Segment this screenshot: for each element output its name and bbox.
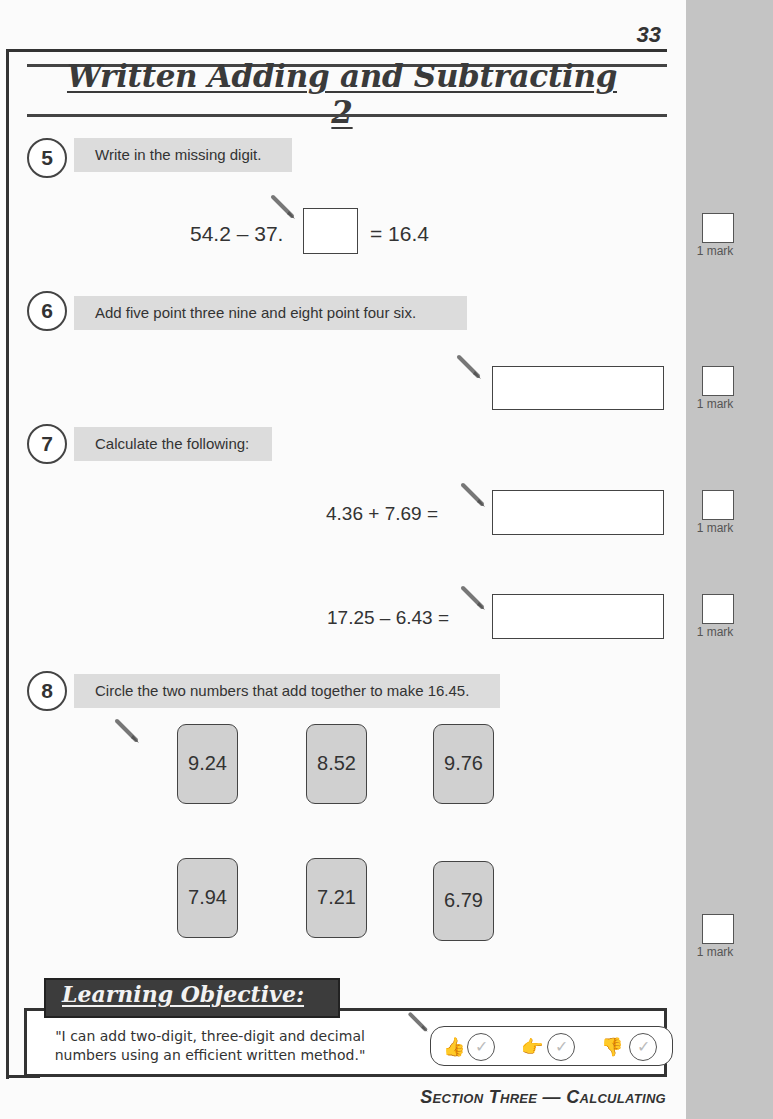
self-assess-check-good[interactable]: ✓ [467, 1033, 495, 1061]
mark-checkbox[interactable] [702, 914, 734, 944]
number-card[interactable]: 7.94 [177, 858, 238, 938]
number-card[interactable]: 6.79 [433, 861, 494, 941]
q7a-expression: 4.36 + 7.69 = [326, 503, 438, 525]
missing-digit-input[interactable] [303, 208, 358, 254]
equation-right: = 16.4 [370, 222, 429, 246]
mark-checkbox[interactable] [702, 366, 734, 396]
question-prompt-7: Calculate the following: [74, 427, 272, 461]
number-card[interactable]: 9.76 [433, 724, 494, 804]
mark-label: 1 mark [692, 397, 738, 411]
title-rule-bottom [27, 114, 667, 117]
question-number-7: 7 [27, 424, 67, 464]
pencil-icon [460, 585, 488, 613]
q7b-answer-input[interactable] [492, 594, 664, 639]
frame-top-border [6, 49, 667, 52]
question-prompt-6: Add five point three nine and eight poin… [74, 296, 467, 330]
mark-box-q6[interactable]: 1 mark [698, 366, 738, 411]
thumbs-down-icon: 👎 [601, 1035, 623, 1059]
question-prompt-5: Write in the missing digit. [74, 138, 292, 172]
mark-checkbox[interactable] [702, 490, 734, 520]
mark-box-q8[interactable]: 1 mark [698, 914, 738, 959]
number-card[interactable]: 8.52 [306, 724, 367, 804]
frame-left-border [6, 49, 9, 1079]
page-title: Written Adding and Subtracting 2 [62, 58, 622, 130]
mark-label: 1 mark [692, 521, 738, 535]
pencil-icon [114, 718, 142, 746]
page-number: 33 [637, 22, 661, 48]
pencil-icon [456, 354, 484, 382]
mark-label: 1 mark [692, 244, 738, 258]
question-prompt-8: Circle the two numbers that add together… [74, 674, 500, 708]
q6-answer-input[interactable] [492, 366, 664, 410]
mark-box-q7b[interactable]: 1 mark [698, 594, 738, 639]
mark-checkbox[interactable] [702, 594, 734, 624]
thumbs-up-icon: 👍 [443, 1035, 465, 1059]
mark-box-q7a[interactable]: 1 mark [698, 490, 738, 535]
pencil-icon [408, 1012, 430, 1034]
mark-label: 1 mark [692, 625, 738, 639]
learning-objective-heading: Learning Objective: [62, 981, 304, 1007]
question-number-6: 6 [27, 291, 67, 331]
mark-checkbox[interactable] [702, 213, 734, 243]
equation-left: 54.2 – 37. [190, 222, 283, 246]
mark-box-q5[interactable]: 1 mark [698, 213, 738, 258]
q7b-expression: 17.25 – 6.43 = [327, 607, 449, 629]
mark-label: 1 mark [692, 945, 738, 959]
question-number-8: 8 [27, 671, 67, 711]
learning-objective-text: "I can add two-digit, three-digit and de… [40, 1027, 380, 1065]
thumbs-sideways-icon: 👉 [521, 1035, 543, 1059]
q7a-answer-input[interactable] [492, 490, 664, 535]
number-card[interactable]: 9.24 [177, 724, 238, 804]
question-number-5: 5 [27, 138, 67, 178]
self-assess-check-poor[interactable]: ✓ [629, 1033, 657, 1061]
section-footer: Section Three — Calculating [420, 1087, 666, 1108]
number-card[interactable]: 7.21 [306, 858, 367, 938]
pencil-icon [460, 482, 488, 510]
self-assessment-bar: 👍 ✓ 👉 ✓ 👎 ✓ [430, 1026, 673, 1066]
pencil-icon [270, 194, 298, 222]
self-assess-check-ok[interactable]: ✓ [547, 1033, 575, 1061]
